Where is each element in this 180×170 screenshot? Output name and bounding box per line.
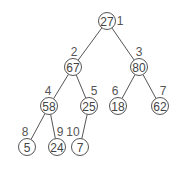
- tree-node: 710: [66, 125, 88, 156]
- tree-edge: [112, 28, 134, 60]
- tree-edge: [76, 75, 86, 98]
- binary-tree-diagram: 27167280358425518662758249710: [0, 0, 180, 170]
- tree-node: 271: [99, 13, 124, 30]
- node-value: 24: [50, 141, 64, 155]
- tree-node: 58: [19, 125, 36, 156]
- tree-edge: [82, 114, 87, 138]
- node-index-label: 1: [117, 14, 124, 28]
- node-value: 62: [153, 100, 167, 114]
- tree-node: 672: [65, 45, 82, 76]
- node-index-label: 10: [66, 125, 80, 139]
- node-value: 27: [100, 15, 114, 29]
- tree-node: 803: [131, 45, 148, 76]
- tree-nodes: 27167280358425518662758249710: [19, 13, 169, 156]
- node-index-label: 3: [136, 45, 143, 59]
- tree-node: 584: [41, 84, 58, 115]
- tree-edge: [31, 114, 45, 140]
- tree-edge: [143, 75, 156, 99]
- node-index-label: 6: [112, 84, 119, 98]
- tree-edge: [51, 114, 56, 138]
- node-value: 67: [66, 61, 80, 75]
- tree-edge: [54, 74, 69, 99]
- node-index-label: 2: [71, 45, 78, 59]
- tree-node: 249: [49, 125, 66, 156]
- node-index-label: 4: [45, 84, 52, 98]
- tree-node: 627: [152, 84, 169, 115]
- node-index-label: 8: [22, 125, 29, 139]
- node-value: 7: [77, 141, 84, 155]
- tree-node: 255: [81, 84, 98, 115]
- node-value: 58: [42, 100, 56, 114]
- node-value: 18: [111, 100, 125, 114]
- tree-edge: [122, 75, 135, 99]
- node-index-label: 9: [57, 125, 64, 139]
- node-value: 5: [24, 141, 31, 155]
- tree-edge: [78, 28, 102, 60]
- node-value: 80: [132, 61, 146, 75]
- tree-node: 186: [110, 84, 127, 115]
- node-value: 25: [82, 100, 96, 114]
- node-index-label: 5: [91, 84, 98, 98]
- node-index-label: 7: [160, 84, 167, 98]
